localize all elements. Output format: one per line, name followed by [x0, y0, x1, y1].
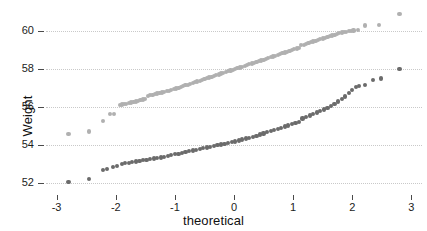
data-point — [105, 167, 109, 171]
data-point — [115, 164, 119, 168]
data-point — [379, 76, 383, 80]
x-tick-mark-0 — [234, 195, 235, 200]
x-tick-mark--1 — [175, 195, 176, 200]
x-tick-label-2: 2 — [337, 202, 367, 213]
y-axis-title: Weight — [20, 56, 35, 176]
data-point — [371, 78, 375, 82]
data-point — [357, 84, 361, 88]
x-tick-label--3: -3 — [42, 202, 72, 213]
data-point — [66, 180, 70, 184]
data-point — [363, 23, 367, 27]
x-tick-mark-2 — [352, 195, 353, 200]
data-point — [356, 28, 360, 32]
y-tick-mark-52 — [38, 183, 44, 184]
qq-plot-figure: 5254565860 -3-2-10123 Weight theoretical — [0, 0, 427, 231]
x-tick-mark--3 — [57, 195, 58, 200]
y-tick-mark-56 — [38, 107, 44, 108]
y-tick-mark-58 — [38, 69, 44, 70]
gridline-y-52 — [46, 183, 422, 184]
x-tick-label--2: -2 — [101, 202, 131, 213]
data-point — [363, 83, 367, 87]
x-tick-label-0: 0 — [219, 202, 249, 213]
x-tick-label-1: 1 — [278, 202, 308, 213]
x-tick-label--1: -1 — [160, 202, 190, 213]
data-point — [101, 119, 105, 123]
data-point — [397, 12, 401, 16]
data-point — [347, 91, 351, 95]
x-tick-mark-3 — [411, 195, 412, 200]
x-tick-label-3: 3 — [396, 202, 426, 213]
gridline-y-54 — [46, 145, 422, 146]
data-point — [87, 177, 91, 181]
data-point — [377, 23, 381, 27]
x-tick-mark--2 — [116, 195, 117, 200]
x-axis-title: theoretical — [0, 213, 427, 228]
data-point — [66, 132, 70, 136]
data-point — [351, 28, 355, 32]
data-point — [397, 67, 401, 71]
plot-panel — [46, 8, 422, 191]
data-point — [112, 112, 116, 116]
gridline-y-56 — [46, 107, 422, 108]
y-tick-mark-54 — [38, 145, 44, 146]
data-point — [343, 94, 347, 98]
y-tick-label-60: 60 — [4, 25, 34, 36]
y-tick-mark-60 — [38, 31, 44, 32]
data-point — [87, 129, 91, 133]
x-tick-mark-1 — [293, 195, 294, 200]
y-tick-label-52: 52 — [4, 177, 34, 188]
gridline-y-60 — [46, 31, 422, 32]
